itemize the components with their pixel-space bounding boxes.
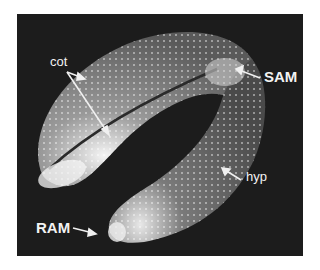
label-ram: RAM bbox=[36, 220, 70, 235]
label-hyp: hyp bbox=[246, 170, 267, 183]
label-cot: cot bbox=[50, 55, 67, 68]
label-sam: SAM bbox=[264, 69, 297, 84]
